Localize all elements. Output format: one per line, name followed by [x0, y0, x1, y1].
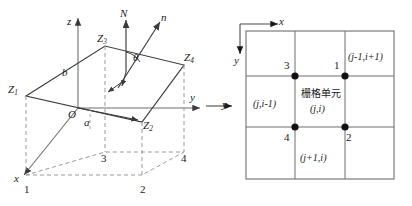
- vertex-Z1-label: Z1: [8, 84, 18, 97]
- y-axis-label: y: [190, 92, 195, 103]
- grid-node-4: [291, 123, 298, 130]
- height-b-label: b: [62, 67, 68, 78]
- neighbor-cell-left-index: (j,i-1): [253, 99, 276, 109]
- left-panel-3d-surface: z y x O N n θ b a Z1 Z2 Z3 Z4 1 2 3 4: [0, 0, 206, 206]
- grid-node-3-label: 3: [284, 60, 290, 71]
- right-panel-grid-cells: x y y 3 1 4 2 栅格单元 (j,i) (j-1,i+1) (j,i-…: [206, 0, 412, 206]
- right-panel-drawing: [206, 0, 412, 206]
- normal-n-label: n: [161, 12, 167, 23]
- theta-angle-label: θ: [133, 52, 138, 63]
- grid-x-axis-label: x: [279, 16, 284, 27]
- figure-container: z y x O N n θ b a Z1 Z2 Z3 Z4 1 2 3 4: [0, 0, 412, 206]
- center-cell-index: (j,i): [310, 104, 325, 114]
- grid-y-axis-label: y: [234, 55, 239, 66]
- grid-node-2-label: 2: [346, 132, 352, 143]
- neighbor-cell-bottom-index: (j+1,i): [300, 153, 326, 163]
- grid-node-2: [341, 123, 348, 130]
- grid-node-1-label: 1: [334, 60, 340, 71]
- normal-n-stub: [108, 82, 122, 92]
- z-axis-label: z: [67, 16, 71, 27]
- outer-y-axis-label: y: [222, 99, 227, 110]
- x-axis-label: x: [14, 173, 19, 184]
- base-corner-1-label: 1: [24, 184, 30, 195]
- vertex-Z4-label: Z4: [184, 52, 194, 65]
- neighbor-cell-top-right-index: (j-1,i+1): [348, 52, 383, 62]
- base-corner-2-label: 2: [140, 184, 146, 195]
- left-panel-drawing: [0, 0, 206, 206]
- vertex-Z2-label: Z2: [143, 120, 153, 133]
- grid-node-3: [291, 72, 298, 79]
- origin-label: O: [68, 109, 76, 120]
- center-cell-title: 栅格单元: [301, 89, 341, 99]
- normal-n-arrow: [118, 22, 160, 88]
- depth-a-label: a: [84, 117, 90, 128]
- grid-node-4-label: 4: [284, 132, 290, 143]
- vertex-Z3-label: Z3: [97, 33, 107, 46]
- grid-node-1: [341, 72, 348, 79]
- base-corner-3-label: 3: [101, 153, 107, 164]
- normal-N-label: N: [120, 8, 127, 19]
- base-corner-4-label: 4: [181, 153, 187, 164]
